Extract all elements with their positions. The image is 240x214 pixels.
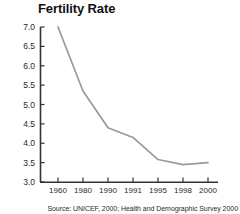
- y-axis-tick-label: 5.5: [23, 80, 35, 90]
- x-axis-tick-label: 1995: [149, 186, 167, 195]
- x-axis-tick-label: 1960: [49, 186, 67, 195]
- y-axis-tick-labels: 7.06.56.05.55.04.54.03.53.0: [23, 22, 35, 187]
- x-axis-tick-label: 1998: [174, 186, 192, 195]
- x-axis-tick-marks: [58, 178, 208, 183]
- y-axis-tick-label: 5.0: [23, 100, 35, 110]
- y-axis-tick-label: 4.0: [23, 138, 35, 148]
- fertility-rate-line: [58, 27, 208, 165]
- y-axis-tick-label: 3.0: [23, 177, 35, 187]
- y-axis-tick-label: 6.5: [23, 41, 35, 51]
- y-axis-tick-label: 7.0: [23, 22, 35, 32]
- y-axis-tick-label: 3.5: [23, 158, 35, 168]
- x-axis-tick-labels: 1960198019901991199519982000: [49, 186, 217, 195]
- x-axis-tick-label: 1990: [99, 186, 117, 195]
- y-axis-tick-label: 4.5: [23, 119, 35, 129]
- source-note: Source: UNICEF, 2000; Health and Demogra…: [47, 205, 238, 212]
- x-axis-tick-label: 2000: [199, 186, 217, 195]
- fertility-rate-chart: Fertility Rate 7.06.56.05.55.04.54.03.53…: [0, 0, 240, 214]
- y-axis-tick-label: 6.0: [23, 61, 35, 71]
- x-axis-tick-label: 1980: [74, 186, 92, 195]
- chart-plot-area: 7.06.56.05.55.04.54.03.53.0 196019801990…: [0, 0, 240, 214]
- x-axis-tick-label: 1991: [124, 186, 142, 195]
